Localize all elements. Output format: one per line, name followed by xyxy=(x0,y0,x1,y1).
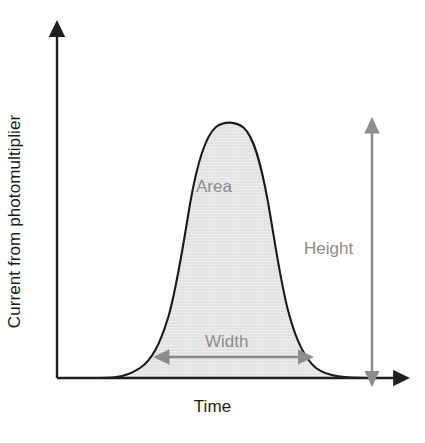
peak-shape-diagram: Current from photomultiplier Time Area H… xyxy=(0,0,425,443)
area-annotation-label: Area xyxy=(196,178,232,195)
x-axis-label: Time xyxy=(0,398,425,415)
width-annotation-label: Width xyxy=(205,333,248,350)
y-axis-label: Current from photomultiplier xyxy=(0,0,28,443)
plot-canvas xyxy=(0,0,425,443)
height-annotation-label: Height xyxy=(304,240,353,257)
